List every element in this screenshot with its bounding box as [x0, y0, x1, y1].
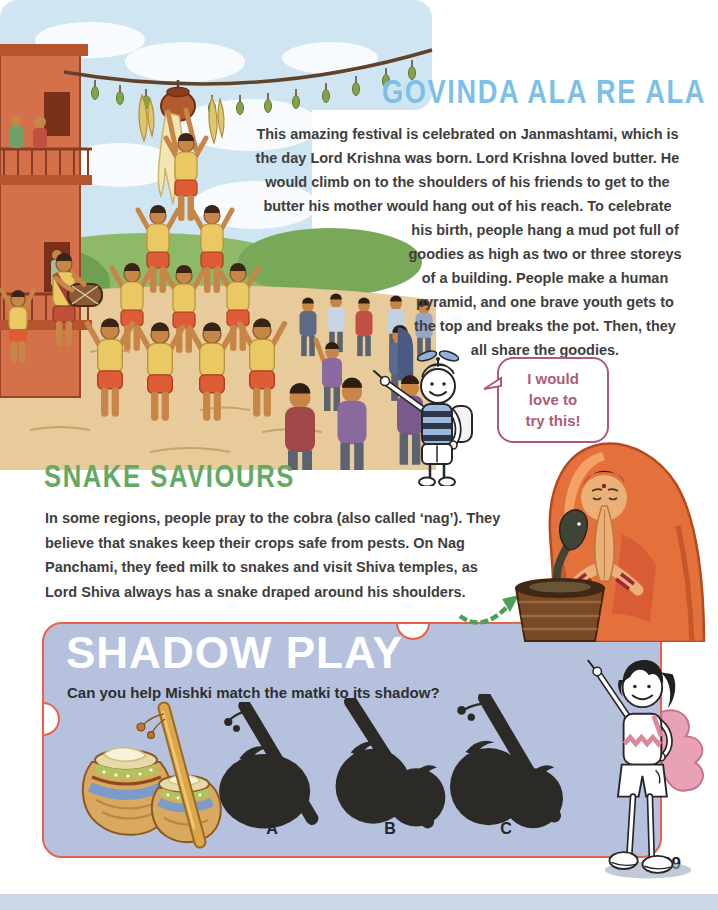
bubble-line: I would [499, 368, 607, 389]
govinda-title: GOVINDA ALA RE ALA [382, 72, 706, 111]
bubble-line: love to [499, 389, 607, 410]
matki-shadow-c-icon [446, 694, 566, 834]
matki-illustration [72, 700, 222, 852]
mascot-boy-illustration [372, 344, 500, 486]
bubble-tail [482, 375, 502, 391]
paragraph-line: would climb on to the shoulders of his f… [225, 170, 710, 194]
snake-title: SNAKE SAVIOURS [44, 458, 295, 495]
speech-bubble: I would love to try this! [497, 357, 609, 443]
next-page-edge [0, 894, 718, 910]
paragraph-line: This amazing festival is celebrated on J… [225, 122, 710, 146]
paragraph-line: the day Lord Krishna was born. Lord Kris… [225, 146, 710, 170]
option-label-b: B [330, 820, 450, 838]
book-page: GOVINDA ALA RE ALA This amazing festival… [0, 0, 718, 910]
paragraph-line: pyramid, and one brave youth gets to [380, 290, 710, 314]
option-label-a: A [212, 820, 332, 838]
green-arrow-icon [460, 595, 519, 623]
box-notch [42, 702, 60, 736]
paragraph-line: goodies as high as two or three storeys [380, 242, 710, 266]
shadow-option-a[interactable] [212, 702, 332, 834]
bubble-line: try this! [499, 410, 607, 431]
matki-shadow-b-icon [330, 698, 450, 834]
shadow-option-b[interactable] [330, 698, 450, 834]
bindi [602, 484, 606, 488]
paragraph-line: his birth, people hang a mud pot full of [380, 218, 710, 242]
shadow-play-title: SHADOW PLAY [66, 628, 403, 678]
mishki-girl-illustration [584, 646, 714, 886]
shadow-play-box: SHADOW PLAY Can you help Mishki match th… [42, 622, 662, 858]
govinda-paragraph-wide: This amazing festival is celebrated on J… [225, 122, 710, 218]
basket [516, 579, 604, 641]
option-label-c: C [446, 820, 566, 838]
paragraph-line: of a building. People make a human [380, 266, 710, 290]
matki-shadow-a-icon [212, 702, 332, 834]
paragraph-line: the top and breaks the pot. Then, they [380, 314, 710, 338]
govinda-paragraph-narrow: his birth, people hang a mud pot full of… [380, 218, 710, 362]
shadow-option-c[interactable] [446, 694, 566, 834]
paragraph-line: butter his mother would hang out of his … [225, 194, 710, 218]
